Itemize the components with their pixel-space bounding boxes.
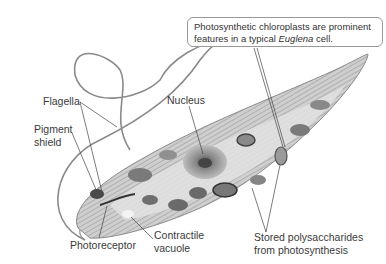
callout-line-1: Photosynthetic chloroplasts are prominen… bbox=[194, 21, 376, 33]
chloroplast-callout: Photosynthetic chloroplasts are prominen… bbox=[187, 17, 383, 47]
label-stored-polysaccharides-1: Stored polysaccharides bbox=[254, 231, 363, 243]
label-flagella: Flagella bbox=[43, 95, 80, 107]
label-nucleus: Nucleus bbox=[167, 94, 205, 106]
callout-line-2: features in a typical Euglena cell. bbox=[194, 33, 376, 45]
label-photoreceptor: Photoreceptor bbox=[70, 239, 136, 251]
label-contractile-vacuole-2: vacuole bbox=[154, 242, 190, 254]
label-contractile-vacuole-1: Contractile bbox=[154, 229, 204, 241]
label-pigment-shield-1: Pigment bbox=[34, 123, 73, 135]
label-stored-polysaccharides-2: from photosynthesis bbox=[254, 244, 348, 256]
euglena-italic: Euglena bbox=[279, 33, 314, 44]
contractile-vacuole-shape bbox=[122, 210, 134, 218]
label-pigment-shield-2: shield bbox=[34, 136, 61, 148]
